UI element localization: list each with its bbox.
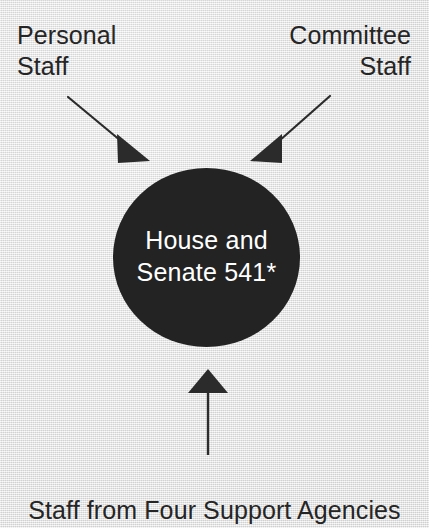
arrow-committee-staff [250,96,330,163]
central-node-label: House and Senate 541* [137,225,277,290]
callout-label-committee-staff: Committee Staff [211,20,411,81]
arrow-personal-staff-shaft [68,97,121,141]
caption-support-agencies: Staff from Four Support Agencies [0,495,429,525]
arrow-support-agencies-head [188,369,228,393]
arrow-personal-staff [68,97,150,163]
diagram-canvas: Personal Staff Committee Staff House and… [0,0,429,528]
callout-label-personal-staff: Personal Staff [17,20,197,81]
arrow-support-agencies [188,369,228,455]
arrow-committee-staff-head [250,134,282,163]
arrow-personal-staff-head [117,134,150,163]
arrow-committee-staff-shaft [279,96,330,141]
central-node-house-and-senate: House and Senate 541* [113,168,300,347]
